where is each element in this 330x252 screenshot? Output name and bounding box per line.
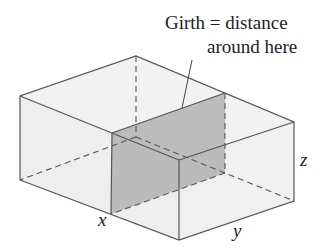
label-z: z (300, 149, 307, 171)
box-girth-diagram: Girth = distance around here x y z (0, 0, 330, 252)
label-y: y (233, 220, 241, 242)
annotation-line-1: Girth = distance (165, 12, 288, 34)
annotation-line-2: around here (207, 36, 297, 58)
label-x: x (98, 209, 106, 231)
